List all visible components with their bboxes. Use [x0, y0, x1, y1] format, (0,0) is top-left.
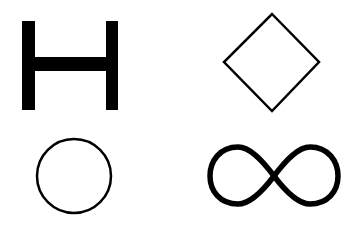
- symbols-canvas: [0, 0, 358, 229]
- h-crossbar: [34, 57, 107, 71]
- h-right-bar: [106, 21, 118, 110]
- background: [0, 0, 358, 229]
- h-left-bar: [22, 21, 35, 110]
- symbols-svg: [0, 0, 358, 229]
